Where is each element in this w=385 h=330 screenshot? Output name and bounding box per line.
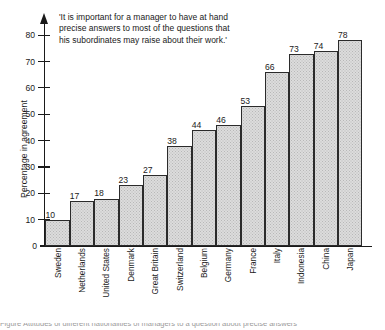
caption-sliver: Figure Attitudes of different nationalit…: [0, 323, 385, 330]
bar[interactable]: 38: [167, 146, 191, 246]
quote-text: 'It is important for a manager to have a…: [59, 12, 234, 46]
bar-value-label: 53: [241, 97, 251, 106]
y-axis-title: Percentage in agreement: [19, 69, 29, 229]
y-axis-tick-label: 70: [25, 57, 35, 67]
bar-value-label: 17: [70, 192, 80, 201]
bar-chart-figure: Percentage in agreement 0102030405060708…: [0, 0, 385, 330]
bar[interactable]: 74: [314, 51, 338, 246]
category-label: Germany: [224, 248, 232, 282]
bar-value-label: 73: [289, 45, 299, 54]
bar-value-label: 23: [119, 176, 129, 185]
category-label: Netherlands: [78, 248, 86, 293]
bar[interactable]: 44: [192, 130, 216, 246]
category-slot: Great Britain: [143, 248, 167, 326]
y-axis-tick-label: 40: [25, 136, 35, 146]
bar-value-label: 44: [192, 121, 202, 130]
bar-value-label: 27: [143, 166, 153, 175]
bar[interactable]: 27: [143, 175, 167, 246]
category-slot: Netherlands: [70, 248, 94, 326]
bar[interactable]: 73: [289, 54, 313, 246]
bar-slot: 44: [192, 22, 216, 246]
category-slot: Germany: [216, 248, 240, 326]
bar-value-label: 38: [167, 137, 177, 146]
bar-slot: 53: [241, 22, 265, 246]
bar-slot: 74: [314, 22, 338, 246]
bar-slot: 38: [167, 22, 191, 246]
bar[interactable]: 53: [241, 106, 265, 246]
bar-value-label: 10: [45, 211, 55, 220]
bar-value-label: 66: [265, 63, 275, 72]
category-label: Great Britain: [151, 248, 159, 295]
category-slot: Japan: [338, 248, 362, 326]
bar[interactable]: 78: [338, 40, 362, 246]
bar[interactable]: 23: [119, 185, 143, 246]
bar-value-label: 46: [216, 116, 226, 125]
category-label: Sweden: [53, 248, 61, 278]
category-label: Italy: [273, 248, 281, 263]
bar-slot: 23: [119, 22, 143, 246]
category-slot: Sweden: [45, 248, 69, 326]
bar-series: 10171823273844465366737478: [45, 22, 362, 246]
category-slot: France: [241, 248, 265, 326]
bar-slot: 17: [70, 22, 94, 246]
bar[interactable]: 17: [70, 201, 94, 246]
bar-value-label: 78: [338, 31, 348, 40]
bar[interactable]: 10: [45, 220, 69, 246]
category-label: United States: [102, 248, 110, 298]
caption-sliver-text: Figure Attitudes of different nationalit…: [0, 323, 385, 328]
y-axis-tick-label: 10: [25, 215, 35, 225]
bar-slot: 78: [338, 22, 362, 246]
bar-slot: 73: [289, 22, 313, 246]
bar-slot: 18: [94, 22, 118, 246]
bar-slot: 27: [143, 22, 167, 246]
category-label: Belgium: [200, 248, 208, 278]
category-slot: Belgium: [192, 248, 216, 326]
y-axis-tick-label: 80: [25, 30, 35, 40]
bar[interactable]: 18: [94, 199, 118, 246]
category-slot: Indonesia: [289, 248, 313, 326]
plot-area: 10171823273844465366737478: [45, 22, 362, 246]
category-label: Japan: [346, 248, 354, 271]
category-label: Denmark: [127, 248, 135, 282]
category-label: Switzerland: [175, 248, 183, 291]
bar[interactable]: 66: [265, 72, 289, 246]
category-slot: China: [314, 248, 338, 326]
category-label: China: [322, 248, 330, 270]
category-slot: United States: [94, 248, 118, 326]
bar-slot: 10: [45, 22, 69, 246]
y-axis-tick-label: 50: [25, 109, 35, 119]
y-axis-tick-label: 20: [25, 188, 35, 198]
bar-slot: 46: [216, 22, 240, 246]
category-label: Indonesia: [297, 248, 305, 284]
category-slot: Italy: [265, 248, 289, 326]
y-axis-tick-label: 60: [25, 83, 35, 93]
y-axis-tick-label: 30: [25, 162, 35, 172]
bar-value-label: 74: [314, 42, 324, 51]
x-axis-category-labels: SwedenNetherlandsUnited StatesDenmarkGre…: [45, 248, 362, 326]
category-slot: Switzerland: [167, 248, 191, 326]
bar-value-label: 18: [94, 189, 104, 198]
category-label: France: [249, 248, 257, 274]
category-slot: Denmark: [119, 248, 143, 326]
y-axis-tick-label: 0: [32, 241, 37, 251]
bar-slot: 66: [265, 22, 289, 246]
bar[interactable]: 46: [216, 125, 240, 246]
